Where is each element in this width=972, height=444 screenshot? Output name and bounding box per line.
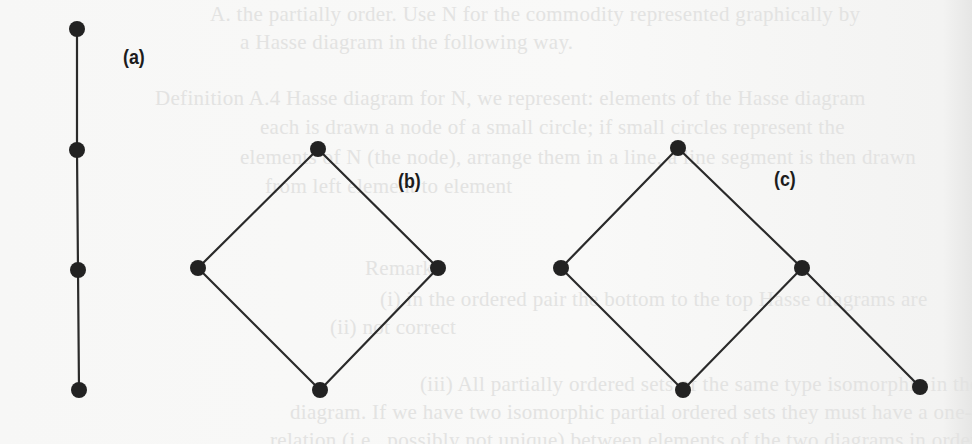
hasse-edge [561,268,683,390]
diagram-label-c: (c) [774,167,796,191]
hasse-node-a4 [71,382,87,398]
hasse-node-c_tail [912,379,928,395]
hasse-node-a2 [69,142,85,158]
hasse-node-c_left [553,260,569,276]
hasse-edge [77,150,78,270]
hasse-node-c_top [670,140,686,156]
diagram-label-a: (a) [123,45,145,69]
hasse-edge [802,268,920,387]
hasse-node-b_left [190,260,206,276]
hasse-edge [198,268,320,390]
hasse-diagram-a-chain [69,21,87,398]
hasse-node-c_right [794,260,810,276]
hasse-diagrams-figure [0,0,972,444]
hasse-node-b_top [310,141,326,157]
hasse-edge [561,148,678,268]
hasse-node-a1 [69,21,85,37]
hasse-diagram-c-diamond-with-tail [553,140,928,398]
hasse-edge [678,148,802,268]
diagram-label-b: (b) [398,169,421,193]
hasse-node-a3 [70,262,86,278]
hasse-node-c_bottom [675,382,691,398]
hasse-edge [683,268,802,390]
hasse-edge [78,270,79,390]
hasse-edge [198,149,318,268]
hasse-node-b_bottom [312,382,328,398]
hasse-edge [320,268,438,390]
hasse-edge [318,149,438,268]
hasse-node-b_right [430,260,446,276]
scanned-page: A. the partially order. Use N for the co… [0,0,972,444]
